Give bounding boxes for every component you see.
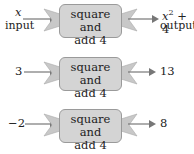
input-value: 3 bbox=[15, 65, 22, 78]
input-caption: input bbox=[5, 19, 34, 32]
output-value: 8 bbox=[160, 117, 167, 130]
machine-label-line2: add 4 bbox=[60, 87, 121, 100]
function-machine-box: square and add 4 bbox=[59, 109, 122, 143]
function-machine-box: square and add 4 bbox=[59, 4, 122, 38]
function-machine-row-neg2: square and add 4 −2 8 bbox=[0, 107, 194, 147]
machine-label-line1: square and bbox=[60, 61, 121, 87]
input-value: x bbox=[15, 6, 22, 19]
machine-label-line2: add 4 bbox=[60, 139, 121, 152]
output-value: 13 bbox=[160, 65, 175, 78]
function-machine-row-3: square and add 4 3 13 bbox=[0, 55, 194, 95]
function-machine-box: square and add 4 bbox=[59, 57, 122, 91]
machine-label-line1: square and bbox=[60, 113, 121, 139]
machine-label-line1: square and bbox=[60, 8, 121, 34]
machine-label-line2: add 4 bbox=[60, 34, 121, 47]
output-caption: output bbox=[160, 19, 194, 32]
input-value: −2 bbox=[8, 117, 25, 130]
function-machine-row-general: square and add 4 x input x2 + 4 output bbox=[0, 2, 194, 42]
